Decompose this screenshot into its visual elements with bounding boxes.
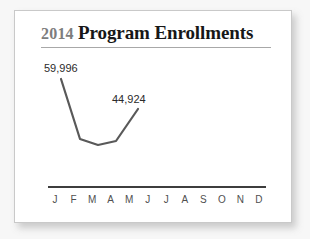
x-tick-label: A	[178, 193, 192, 207]
x-tick-label: D	[252, 193, 266, 207]
x-tick-label: O	[215, 193, 229, 207]
data-label-start: 59,996	[44, 63, 78, 74]
x-tick-label: A	[104, 193, 118, 207]
x-tick-label: J	[48, 193, 62, 207]
x-tick-label: M	[122, 193, 136, 207]
chart-card: 2014 Program Enrollments 59,996 44,924 J…	[14, 10, 292, 223]
x-tick-label: S	[196, 193, 210, 207]
x-tick-label: J	[141, 193, 155, 207]
screenshot-root: 2014 Program Enrollments 59,996 44,924 J…	[0, 0, 310, 239]
x-axis-labels: J F M A M J J A S O N D	[48, 193, 266, 207]
x-tick-label: J	[159, 193, 173, 207]
x-tick-label: N	[233, 193, 247, 207]
x-axis-line	[48, 186, 266, 188]
x-tick-label: M	[85, 193, 99, 207]
x-tick-label: F	[67, 193, 81, 207]
enrollment-line	[61, 79, 138, 145]
data-label-end: 44,924	[112, 94, 146, 105]
